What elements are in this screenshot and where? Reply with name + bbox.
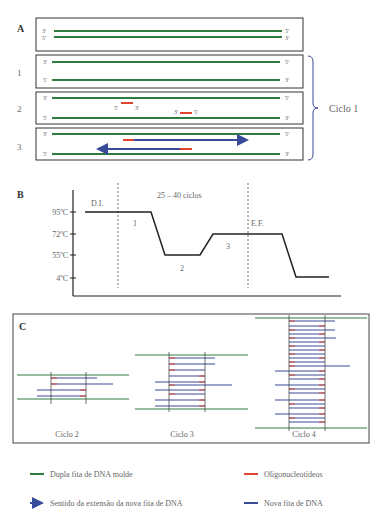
panel-b-label: B: [17, 189, 24, 200]
row-label: 2: [17, 104, 22, 114]
end-label: 5': [285, 28, 289, 34]
step-1-label: 1: [133, 219, 137, 228]
legend-extension-direction: Sentido da extensão da nova fita de DNA: [50, 499, 183, 508]
panel-a-label: A: [17, 23, 25, 34]
end-label: 5': [43, 77, 47, 83]
row-1-frame: [36, 55, 303, 88]
row-3-frame: [36, 128, 303, 160]
end-label: 3': [285, 35, 289, 41]
cycle-3-label: Ciclo 3: [170, 430, 193, 439]
new-strands: [155, 358, 232, 406]
primer-end-label: 3': [135, 105, 139, 111]
panel-c: C Ciclo 2: [13, 314, 369, 443]
new-strands: [275, 321, 350, 422]
row-label: 3: [17, 142, 22, 152]
legend-oligonucleotides: Oligonucleotídeos: [264, 470, 323, 479]
panel-a: A 3' 5' 5' 3' 1 3' 5' 5' 3' 2 3' 5' 5' 3…: [17, 18, 358, 160]
end-label: 5': [285, 95, 289, 101]
cycle-brace: [308, 56, 318, 160]
end-label: 3': [43, 95, 47, 101]
row-label: 1: [17, 68, 22, 78]
end-label: 5': [43, 115, 47, 121]
final-extension-label: E.F.: [251, 219, 264, 228]
pcr-diagram: A 3' 5' 5' 3' 1 3' 5' 5' 3' 2 3' 5' 5' 3…: [0, 0, 388, 527]
step-2-label: 2: [180, 264, 184, 273]
initial-denaturation-label: D.I.: [91, 199, 103, 208]
primer-end-label: 5': [114, 105, 118, 111]
legend: Dupla fita de DNA molde Oligonucleotídeo…: [30, 470, 323, 508]
row-a-frame: [36, 18, 303, 51]
cycle-range-label: 25 – 40 ciclos: [157, 191, 202, 200]
temperature-profile-line: [85, 212, 329, 277]
end-label: 5': [43, 151, 47, 157]
cycle-4-diagram: Ciclo 4: [255, 315, 367, 439]
end-label: 5': [285, 131, 289, 137]
y-tick-label: 55ºC: [52, 251, 68, 260]
cycle-1-label: Ciclo 1: [329, 103, 358, 114]
end-label: 3': [285, 151, 289, 157]
primer-end-label: 5': [194, 109, 198, 115]
cycle-4-label: Ciclo 4: [292, 430, 315, 439]
cycle-2-label: Ciclo 2: [55, 430, 78, 439]
end-label: 3': [42, 28, 46, 34]
cycle-2-diagram: Ciclo 2: [17, 372, 129, 439]
cycle-3-diagram: Ciclo 3: [135, 352, 248, 439]
end-label: 5': [42, 35, 46, 41]
end-label: 3': [285, 115, 289, 121]
end-label: 5': [285, 59, 289, 65]
legend-template-dna: Dupla fita de DNA molde: [50, 470, 133, 479]
row-2-frame: [36, 92, 303, 124]
panel-c-label: C: [19, 321, 26, 332]
y-tick-label: 72ºC: [52, 230, 68, 239]
primer-end-label: 3': [174, 109, 178, 115]
end-label: 3': [285, 77, 289, 83]
end-label: 3': [43, 59, 47, 65]
panel-b-chart: B 95ºC 72ºC 55ºC 4ºC D.I. 25 – 40 ciclos…: [17, 183, 341, 296]
y-tick-label: 4ºC: [56, 274, 68, 283]
legend-new-dna: Nova fita de DNA: [264, 499, 323, 508]
y-tick-label: 95ºC: [52, 208, 68, 217]
step-3-label: 3: [226, 242, 230, 251]
end-label: 3': [43, 131, 47, 137]
